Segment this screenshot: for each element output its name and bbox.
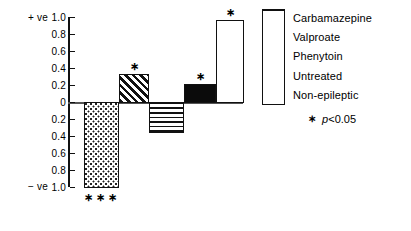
plot-area: + ve − ve 1.0 0.8 0.6 0.4 0.2 0 0.2 0.4 … xyxy=(0,0,255,231)
significance-marker-valproate: ∗ xyxy=(119,61,149,72)
bar-non-epileptic xyxy=(216,20,244,103)
bar-carbamazepine xyxy=(84,102,119,188)
legend-label-non-epileptic: Non-epileptic xyxy=(293,86,411,105)
significance-marker-non-epileptic: ∗ xyxy=(216,7,244,18)
bar-series: ∗∗∗ ∗ ∗ ∗ xyxy=(0,0,255,231)
significance-marker-carbamazepine: ∗∗∗ xyxy=(82,192,121,203)
legend-swatch-non-epileptic xyxy=(263,10,284,29)
legend-label-carbamazepine: Carbamazepine xyxy=(293,9,411,28)
legend-swatch-box xyxy=(262,9,285,105)
footnote-asterisk: ∗ xyxy=(308,113,316,124)
legend-label-list: Carbamazepine Valproate Phenytoin Untrea… xyxy=(293,9,411,105)
bar-valproate xyxy=(119,74,149,103)
bar-phenytoin xyxy=(149,102,184,133)
significance-footnote: ∗ p<0.05 xyxy=(262,113,402,125)
bar-untreated xyxy=(184,84,216,103)
footnote-condition: <0.05 xyxy=(328,113,356,125)
bar-chart-figure: + ve − ve 1.0 0.8 0.6 0.4 0.2 0 0.2 0.4 … xyxy=(0,0,411,231)
significance-marker-untreated: ∗ xyxy=(184,71,216,82)
legend-label-phenytoin: Phenytoin xyxy=(293,47,411,66)
legend-label-valproate: Valproate xyxy=(293,28,411,47)
legend-label-untreated: Untreated xyxy=(293,67,411,86)
